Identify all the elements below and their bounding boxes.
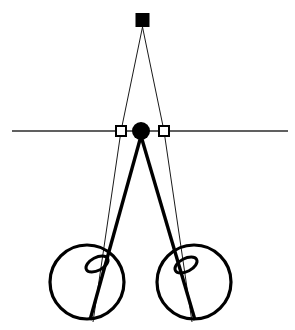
filled-square-target xyxy=(136,13,150,27)
open-square-left xyxy=(116,126,126,136)
ray-diagram xyxy=(0,0,295,330)
thick-ray-right xyxy=(141,136,195,320)
left-pupil-ellipse xyxy=(83,253,110,276)
left-eye-circle xyxy=(50,245,124,319)
thick-ray-left xyxy=(90,136,141,320)
thin-ray-right xyxy=(143,27,193,322)
filled-circle-node xyxy=(132,122,150,140)
open-square-right xyxy=(159,126,169,136)
diagram-canvas xyxy=(0,0,295,330)
